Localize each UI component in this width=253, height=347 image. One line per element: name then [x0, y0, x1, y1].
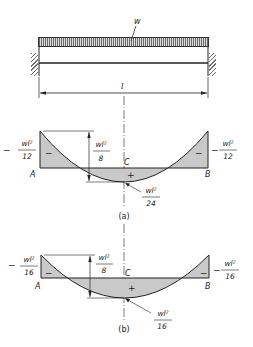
dim-arrow-up-icon — [87, 132, 90, 138]
dim-arrow-down-icon — [88, 291, 91, 297]
end-moment-left-den-a: 12 — [22, 152, 32, 161]
figure-drawing: w l − wl² — [0, 0, 253, 347]
end-moment-right-num-b: wl² — [224, 259, 235, 268]
end-moment-right-sign-a: − — [211, 145, 219, 155]
neg-region-right-sign-b: − — [200, 268, 208, 278]
midspan-leader-a — [127, 184, 141, 192]
midspan-moment-num-a: wl² — [145, 186, 156, 195]
span-label: l — [121, 82, 124, 91]
center-point-label-a: C — [124, 158, 130, 167]
pos-region-sign-b: + — [128, 283, 136, 293]
simple-moment-den-a: 8 — [99, 154, 104, 163]
end-moment-left-sign-b: − — [8, 260, 16, 270]
end-moment-left-den-b: 16 — [24, 268, 34, 277]
beam-elevation: w l — [39, 17, 208, 98]
simple-moment-num-a: wl² — [95, 140, 106, 149]
neg-region-left-sign-b: − — [45, 268, 53, 278]
neg-region-right-sign-a: − — [195, 148, 203, 158]
caption-b: (b) — [118, 325, 129, 334]
end-moment-right-num-a: wl² — [222, 139, 233, 148]
midspan-leader-arrow-icon — [125, 183, 130, 187]
support-a-label: A — [29, 170, 35, 179]
moment-diagram-a: − wl² 12 − A wl² 8 C + wl² 24 − B − wl² … — [3, 131, 237, 221]
end-moment-left-num-b: wl² — [23, 255, 34, 264]
end-moment-right-den-b: 16 — [225, 272, 235, 281]
pos-region-sign-a: + — [127, 170, 135, 180]
dim-arrow-down-icon — [87, 175, 90, 181]
end-moment-left-sign-a: − — [3, 145, 11, 155]
caption-a: (a) — [118, 212, 129, 221]
midspan-moment-num-b: wl² — [157, 309, 168, 318]
midspan-moment-den-a: 24 — [146, 199, 156, 208]
load-leader-line — [131, 26, 136, 41]
simple-moment-num-b: wl² — [98, 253, 109, 262]
midspan-leader-b — [128, 300, 151, 313]
support-b-label: B — [205, 282, 211, 291]
end-moment-right-sign-b: − — [213, 265, 221, 275]
span-arrowhead-left-icon — [40, 91, 46, 95]
dim-arrow-up-icon — [88, 256, 91, 262]
span-arrowhead-right-icon — [201, 91, 207, 95]
midspan-moment-den-b: 16 — [157, 322, 167, 331]
center-point-label-b: C — [125, 269, 131, 278]
support-b-label: B — [205, 170, 211, 179]
neg-region-left-sign-a: − — [45, 148, 53, 158]
midspan-leader-arrow-icon — [125, 298, 130, 303]
moment-diagram-b: − wl² 16 − A wl² 8 C + wl² 16 − B − wl² … — [8, 253, 239, 334]
load-label: w — [134, 17, 141, 26]
end-moment-left-num-a: wl² — [21, 139, 32, 148]
support-a-label: A — [34, 282, 40, 291]
simple-moment-den-b: 8 — [102, 266, 107, 275]
moment-diagram-figure: w l − wl² — [0, 0, 253, 347]
end-moment-right-den-a: 12 — [223, 152, 233, 161]
